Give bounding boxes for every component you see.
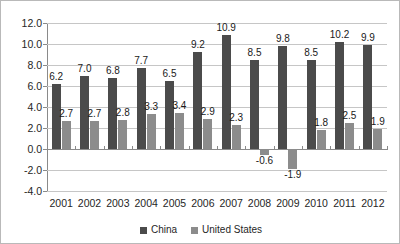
bar-value-label: 1.9 bbox=[365, 117, 391, 127]
x-axis-tick bbox=[160, 146, 161, 150]
bar-group: 9.91.9 bbox=[359, 23, 387, 191]
bar-value-label: 7.7 bbox=[128, 56, 154, 66]
x-axis-ticks bbox=[47, 146, 387, 151]
y-axis-tick-label: 4.0 bbox=[8, 102, 42, 112]
bar-value-label: 9.9 bbox=[355, 33, 381, 43]
bar-china[interactable] bbox=[193, 52, 202, 149]
legend-label: China bbox=[151, 224, 177, 235]
legend-swatch-icon bbox=[140, 227, 147, 234]
x-axis-tick bbox=[274, 146, 275, 150]
x-axis-tick bbox=[330, 146, 331, 150]
bar-united-states[interactable] bbox=[175, 113, 184, 149]
legend-item-china[interactable]: China bbox=[140, 224, 177, 235]
x-axis-tick bbox=[104, 146, 105, 150]
bar-china[interactable] bbox=[278, 46, 287, 149]
bar-value-label: 6.8 bbox=[100, 66, 126, 76]
bar-group: 7.02.7 bbox=[75, 23, 103, 191]
x-axis-tick-label: 2012 bbox=[356, 198, 390, 209]
bar-united-states[interactable] bbox=[203, 119, 212, 149]
bar-value-label: 7.0 bbox=[72, 64, 98, 74]
bar-value-label: 10.2 bbox=[327, 30, 353, 40]
x-axis-tick bbox=[132, 146, 133, 150]
y-axis-tick-label: 2.0 bbox=[8, 123, 42, 133]
x-axis-tick bbox=[245, 146, 246, 150]
x-axis-tick bbox=[302, 146, 303, 150]
y-axis-tick-label: -2.0 bbox=[8, 165, 42, 175]
bar-china[interactable] bbox=[165, 81, 174, 149]
x-axis-tick bbox=[189, 146, 190, 150]
gridline bbox=[47, 191, 387, 192]
bar-united-states[interactable] bbox=[90, 121, 99, 149]
bar-value-label: 10.9 bbox=[213, 23, 239, 33]
bar-value-label: 6.5 bbox=[157, 69, 183, 79]
x-axis-tick bbox=[359, 146, 360, 150]
x-axis-tick bbox=[47, 146, 48, 150]
bar-united-states[interactable] bbox=[147, 114, 156, 149]
plot-area: 6.22.77.02.76.82.87.73.36.53.49.22.910.9… bbox=[47, 23, 387, 191]
legend-swatch-icon bbox=[191, 227, 198, 234]
bar-china[interactable] bbox=[335, 42, 344, 149]
bar-chart: 12.010.08.06.04.02.00.0-2.0-4.0 6.22.77.… bbox=[0, 0, 400, 244]
y-axis-tick-label: -4.0 bbox=[8, 186, 42, 196]
bar-united-states[interactable] bbox=[62, 121, 71, 149]
legend-label: United States bbox=[202, 224, 262, 235]
bar-group: 10.22.5 bbox=[330, 23, 358, 191]
bar-china[interactable] bbox=[222, 35, 231, 149]
y-axis-tick-label: 6.0 bbox=[8, 81, 42, 91]
bar-value-label: 9.2 bbox=[185, 40, 211, 50]
bar-china[interactable] bbox=[363, 45, 372, 149]
bar-group: 9.22.9 bbox=[189, 23, 217, 191]
bar-group: 8.5-0.6 bbox=[245, 23, 273, 191]
x-axis-tick bbox=[217, 146, 218, 150]
bar-china[interactable] bbox=[307, 60, 316, 149]
x-axis-tick bbox=[387, 146, 388, 150]
bar-value-label: 8.5 bbox=[242, 48, 268, 58]
x-axis-tick bbox=[75, 146, 76, 150]
y-axis-tick-label: 10.0 bbox=[8, 39, 42, 49]
bar-united-states[interactable] bbox=[118, 120, 127, 149]
bar-group: 8.51.8 bbox=[302, 23, 330, 191]
bar-china[interactable] bbox=[250, 60, 259, 149]
legend-item-united-states[interactable]: United States bbox=[191, 224, 262, 235]
bar-value-label: 6.2 bbox=[43, 72, 69, 82]
y-axis-tick-label: 8.0 bbox=[8, 60, 42, 70]
y-axis-tick-label: 12.0 bbox=[8, 18, 42, 28]
bar-group: 6.22.7 bbox=[47, 23, 75, 191]
bar-group: 7.73.3 bbox=[132, 23, 160, 191]
chart-legend: ChinaUnited States bbox=[1, 223, 400, 235]
bar-value-label: 9.8 bbox=[270, 34, 296, 44]
bar-united-states[interactable] bbox=[288, 149, 297, 169]
y-axis-tick bbox=[43, 191, 47, 192]
bar-group: 6.82.8 bbox=[104, 23, 132, 191]
y-axis-tick-label: 0.0 bbox=[8, 144, 42, 154]
bar-value-label: 8.5 bbox=[298, 48, 324, 58]
